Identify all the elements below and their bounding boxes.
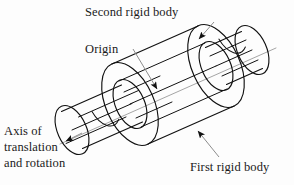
label-first-rigid-body: First rigid body	[190, 160, 269, 175]
label-axis-line-2: translation	[4, 140, 58, 154]
label-axis-line-3: and rotation	[4, 156, 65, 170]
label-origin: Origin	[85, 42, 118, 57]
label-axis-of-translation-and-rotation: Axis of translation and rotation	[4, 123, 88, 171]
inner-cylinder-right-rulings	[210, 40, 258, 76]
diagram-canvas: Second rigid body Origin First rigid bod…	[0, 0, 294, 185]
leader-first-rigid-body	[198, 131, 219, 157]
label-axis-line-1: Axis of	[4, 124, 42, 138]
rotation-axis-line	[60, 48, 276, 144]
label-second-rigid-body: Second rigid body	[85, 5, 178, 20]
